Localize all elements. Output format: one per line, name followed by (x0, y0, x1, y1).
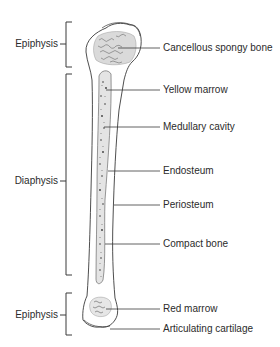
label-epiphysis-bottom: Epiphysis (4, 309, 58, 321)
label-diaphysis: Diaphysis (4, 175, 58, 187)
bone-outline (83, 23, 141, 327)
label-periosteum: Periosteum (163, 199, 214, 211)
label-endosteum: Endosteum (163, 165, 214, 177)
bracket-epiphysis-top (60, 22, 72, 67)
bracket-diaphysis (60, 74, 72, 275)
bracket-epiphysis-bottom (60, 293, 72, 335)
label-cancellous-spongy-bone: Cancellous spongy bone (163, 42, 273, 54)
label-red-marrow: Red marrow (163, 303, 217, 315)
label-compact-bone: Compact bone (163, 238, 228, 250)
label-yellow-marrow: Yellow marrow (163, 84, 228, 96)
label-medullary-cavity: Medullary cavity (163, 121, 235, 133)
label-articulating-cartilage: Articulating cartilage (163, 323, 253, 335)
label-epiphysis-top: Epiphysis (4, 38, 58, 50)
